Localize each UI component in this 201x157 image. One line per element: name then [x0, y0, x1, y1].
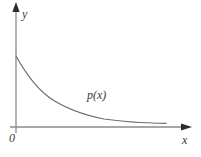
x-axis-label: x	[182, 134, 187, 146]
curve-label: p(x)	[87, 89, 106, 101]
decay-curve-figure: y x 0 p(x)	[0, 0, 201, 157]
plot-canvas	[0, 0, 201, 157]
y-axis-arrowhead-icon	[12, 2, 19, 12]
x-axis-arrowhead-icon	[181, 123, 192, 130]
y-axis-label: y	[22, 8, 27, 20]
origin-label: 0	[9, 132, 15, 144]
